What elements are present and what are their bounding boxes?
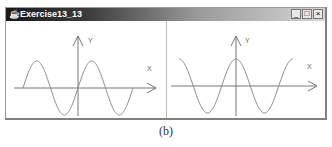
app-window: ☕ Exercise13_13 _ □ × X Y bbox=[5, 7, 327, 120]
sine-plot: X Y bbox=[6, 21, 166, 119]
maximize-button[interactable]: □ bbox=[302, 9, 312, 19]
figure-caption: (b) bbox=[0, 124, 332, 139]
close-button[interactable]: × bbox=[313, 9, 323, 19]
y-axis-label: Y bbox=[88, 37, 93, 44]
title-bar[interactable]: ☕ Exercise13_13 _ □ × bbox=[6, 8, 325, 21]
y-axis-label: Y bbox=[245, 37, 250, 44]
minimize-button[interactable]: _ bbox=[291, 9, 301, 19]
sine-panel: X Y bbox=[6, 21, 166, 118]
window-content: X Y X Y bbox=[6, 21, 325, 118]
java-cup-icon: ☕ bbox=[9, 9, 18, 20]
cosine-panel: X Y bbox=[167, 21, 327, 118]
window-title: Exercise13_13 bbox=[20, 8, 82, 21]
x-axis-label: X bbox=[147, 65, 152, 72]
cosine-plot: X Y bbox=[167, 21, 327, 119]
x-axis-label: X bbox=[307, 63, 312, 70]
window-controls: _ □ × bbox=[290, 9, 323, 19]
